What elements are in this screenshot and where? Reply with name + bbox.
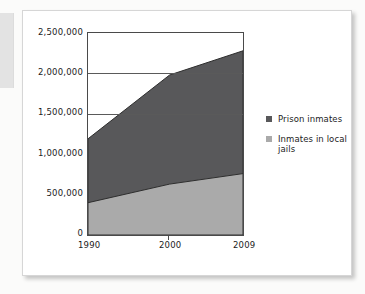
- y-tick-label-2500000: 2,500,000: [21, 28, 83, 37]
- y-tick-label-500000: 500,000: [21, 189, 83, 198]
- x-tick-label-2000: 2000: [159, 241, 181, 250]
- x-tick-label-2009: 2009: [233, 241, 255, 250]
- legend-swatch-icon-prison-inmates: [266, 116, 272, 122]
- x-axis: 1990 2000 2009: [87, 241, 244, 255]
- page-margin-tab: [0, 13, 14, 88]
- x-tick-label-1990: 1990: [78, 241, 100, 250]
- gridline-1500000: [88, 114, 243, 115]
- legend-swatch-icon-inmates-in-local-jails: [266, 136, 272, 142]
- legend-label-inmates-in-local-jails: Inmates in local jails: [278, 134, 350, 155]
- y-tick-label-0: 0: [21, 229, 83, 238]
- chart-legend: Prison inmates Inmates in local jails: [266, 114, 350, 164]
- y-tick-label-2000000: 2,000,000: [21, 68, 83, 77]
- gridline-2000000: [88, 73, 243, 74]
- legend-item-prison-inmates: Prison inmates: [266, 114, 350, 125]
- y-tick-label-1500000: 1,500,000: [21, 108, 83, 117]
- area-series-group: [88, 33, 243, 235]
- plot-area: [87, 32, 244, 236]
- y-axis: 2,500,000 2,000,000 1,500,000 1,000,000 …: [23, 32, 83, 234]
- stacked-area-chart: 2,500,000 2,000,000 1,500,000 1,000,000 …: [23, 11, 353, 277]
- legend-item-inmates-in-local-jails: Inmates in local jails: [266, 134, 350, 155]
- figure-card: 2,500,000 2,000,000 1,500,000 1,000,000 …: [22, 10, 352, 276]
- y-tick-label-1000000: 1,000,000: [21, 149, 83, 158]
- legend-label-prison-inmates: Prison inmates: [278, 114, 342, 125]
